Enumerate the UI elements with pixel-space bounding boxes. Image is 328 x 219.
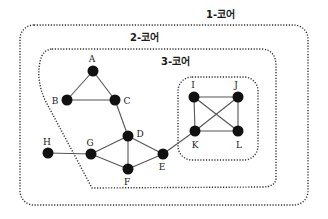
node-G	[86, 149, 97, 160]
node-label-J: J	[233, 80, 238, 90]
node-label-B: B	[52, 96, 59, 106]
edge-E-K	[163, 131, 195, 154]
core3-label: 3-코어	[161, 55, 190, 67]
core1-boundary	[20, 25, 308, 205]
graph-nodes	[43, 66, 244, 175]
core-labels: 1-코어2-코어3-코어	[130, 8, 235, 67]
node-label-A: A	[88, 54, 96, 64]
node-A	[88, 66, 99, 77]
node-L	[233, 126, 244, 137]
node-label-C: C	[124, 96, 131, 106]
core2-label: 2-코어	[130, 31, 159, 43]
graph-edges	[48, 71, 238, 169]
node-I	[189, 92, 200, 103]
node-E	[158, 149, 169, 160]
node-label-F: F	[124, 177, 130, 187]
edge-D-G	[91, 136, 128, 154]
node-label-D: D	[136, 129, 143, 139]
node-J	[233, 92, 244, 103]
edge-D-E	[128, 136, 163, 154]
node-F	[123, 164, 134, 175]
node-H	[43, 148, 54, 159]
node-label-H: H	[43, 137, 51, 147]
k-core-diagram: 1-코어2-코어3-코어 ABCDEFGHIJKL	[0, 0, 328, 219]
core3-boundary	[178, 77, 258, 160]
edge-H-G	[48, 153, 91, 154]
node-B	[62, 95, 73, 106]
edge-A-B	[67, 71, 93, 100]
core1-label: 1-코어	[206, 8, 235, 20]
core2-boundary	[39, 49, 276, 188]
node-label-K: K	[192, 140, 199, 150]
node-label-L: L	[236, 140, 242, 150]
node-labels: ABCDEFGHIJKL	[43, 54, 242, 187]
edge-G-F	[91, 154, 128, 169]
node-K	[190, 126, 201, 137]
node-D	[123, 131, 134, 142]
node-C	[110, 95, 121, 106]
node-label-I: I	[191, 80, 195, 90]
core-boundaries	[20, 25, 308, 205]
node-label-E: E	[159, 162, 166, 172]
node-label-G: G	[86, 138, 93, 148]
